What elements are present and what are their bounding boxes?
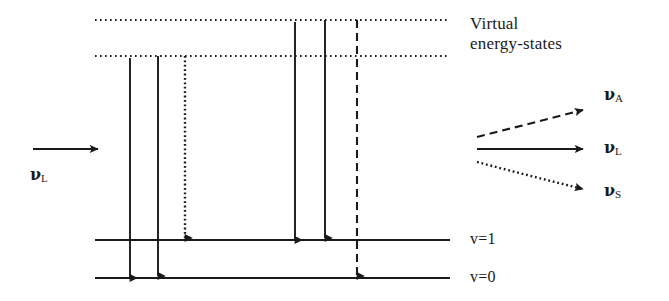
diagram-canvas [0, 0, 669, 301]
nu-subscript-rayleigh: L [615, 145, 622, 157]
anti-stokes-output-label: νA [604, 86, 623, 105]
stokes-transition-group [130, 56, 185, 278]
scattered-output-arrows [477, 110, 583, 189]
virtual-caption-line-1: Virtual [470, 14, 562, 34]
incoming-laser-label: νL [30, 166, 48, 185]
nu-subscript-anti-stokes: A [615, 92, 623, 104]
nu-glyph-stokes: ν [604, 181, 615, 200]
antistokes-transition-group [295, 20, 357, 276]
stokes-output-arrow [477, 162, 583, 189]
level-label-v1: v=1 [470, 230, 496, 249]
vibrational-levels [95, 240, 450, 278]
rayleigh-output-label: νL [604, 139, 622, 158]
nu-subscript-stokes: S [615, 188, 621, 200]
nu-glyph-anti-stokes: ν [604, 85, 615, 104]
nu-glyph-rayleigh: ν [604, 138, 615, 157]
raman-energy-level-diagram: Virtual energy-states νL νA νL νS v=1 v=… [0, 0, 669, 301]
virtual-energy-levels [95, 20, 450, 56]
virtual-energy-states-caption: Virtual energy-states [470, 14, 562, 54]
nu-subscript-incoming: L [41, 172, 48, 184]
virtual-caption-line-2: energy-states [470, 34, 562, 54]
level-label-v0: v=0 [470, 268, 496, 287]
anti-stokes-output-arrow [477, 110, 583, 137]
nu-glyph-incoming: ν [30, 165, 41, 184]
stokes-output-label: νS [604, 182, 622, 201]
